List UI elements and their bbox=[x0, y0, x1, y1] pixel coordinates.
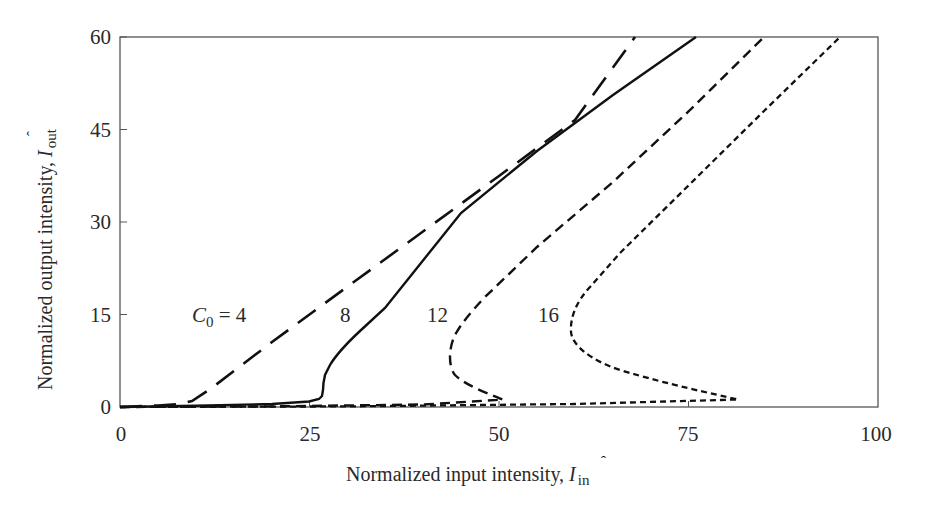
plot-frame bbox=[120, 37, 878, 407]
x-tick-label: 0 bbox=[116, 422, 127, 446]
y-tick-label: 45 bbox=[90, 118, 111, 142]
x-axis-title: Normalized input intensity, Iin ˆ bbox=[346, 453, 606, 488]
x-tick-label: 75 bbox=[678, 422, 699, 446]
x-tick-label: 25 bbox=[300, 422, 321, 446]
bistability-chart: 60 45 30 15 0 0 25 50 75 100 Normalized … bbox=[0, 0, 926, 508]
y-axis-tick-labels: 60 45 30 15 0 bbox=[90, 25, 111, 419]
x-tick-label: 50 bbox=[489, 422, 510, 446]
y-axis-title-symbol: I bbox=[34, 149, 56, 158]
label-c0-8: 8 bbox=[340, 303, 351, 327]
y-axis-title-text: Normalized output intensity, bbox=[34, 157, 57, 390]
x-axis-title-text: Normalized input intensity, bbox=[346, 463, 569, 486]
label-c0-12: 12 bbox=[427, 303, 448, 327]
y-tick-label: 15 bbox=[90, 303, 111, 327]
y-axis-title: Normalized output intensity, Iout ˆ bbox=[24, 128, 59, 390]
y-axis-title-subscript: out bbox=[43, 128, 59, 148]
y-axis-hat: ˆ bbox=[24, 131, 40, 136]
x-axis-tick-labels: 0 25 50 75 100 bbox=[116, 422, 892, 446]
curve-c0-4 bbox=[120, 37, 635, 407]
label-c0-16: 16 bbox=[538, 303, 559, 327]
y-tick-label: 30 bbox=[90, 210, 111, 234]
y-axis-ticks bbox=[120, 37, 127, 407]
label-c0-4: C0 = 4 bbox=[192, 303, 247, 330]
y-tick-label: 0 bbox=[101, 395, 112, 419]
x-tick-label: 100 bbox=[860, 422, 892, 446]
x-axis-title-symbol: I bbox=[568, 463, 577, 485]
svg-text:Normalized input intensity, Ii: Normalized input intensity, Iin bbox=[346, 463, 590, 488]
curve-c0-16 bbox=[120, 37, 840, 407]
x-axis-hat: ˆ bbox=[601, 453, 606, 469]
svg-text:Normalized output intensity, I: Normalized output intensity, Iout bbox=[34, 128, 59, 390]
y-tick-label: 60 bbox=[90, 25, 111, 49]
x-axis-title-subscript: in bbox=[578, 472, 590, 488]
curve-c0-12 bbox=[120, 37, 764, 407]
curve-c0-8 bbox=[120, 37, 696, 407]
